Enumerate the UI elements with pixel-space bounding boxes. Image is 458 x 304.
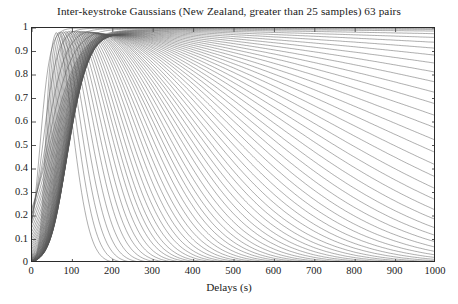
x-tick-label: 700 — [294, 265, 334, 276]
x-tick-label: 800 — [334, 265, 374, 276]
x-tick-label: 1000 — [415, 265, 455, 276]
x-tick-label: 900 — [375, 265, 415, 276]
x-tick-label: 600 — [253, 265, 293, 276]
figure: Inter-keystroke Gaussians (New Zealand, … — [0, 0, 458, 304]
x-tick-label: 500 — [213, 265, 253, 276]
x-tick-label: 200 — [92, 265, 132, 276]
x-axis-title: Delays (s) — [0, 281, 458, 293]
x-tick-label: 400 — [173, 265, 213, 276]
x-tick-label: 300 — [132, 265, 172, 276]
x-axis-labels: 01002003004005006007008009001000 — [0, 0, 458, 304]
x-tick-label: 100 — [51, 265, 91, 276]
x-tick-label: 0 — [11, 265, 51, 276]
